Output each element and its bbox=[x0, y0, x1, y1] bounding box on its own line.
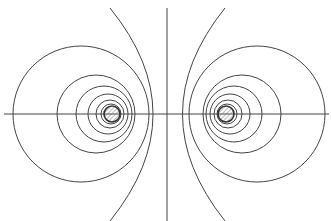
field-diagram bbox=[0, 0, 331, 221]
left-conductor bbox=[104, 106, 120, 122]
right-conductor bbox=[218, 106, 234, 122]
